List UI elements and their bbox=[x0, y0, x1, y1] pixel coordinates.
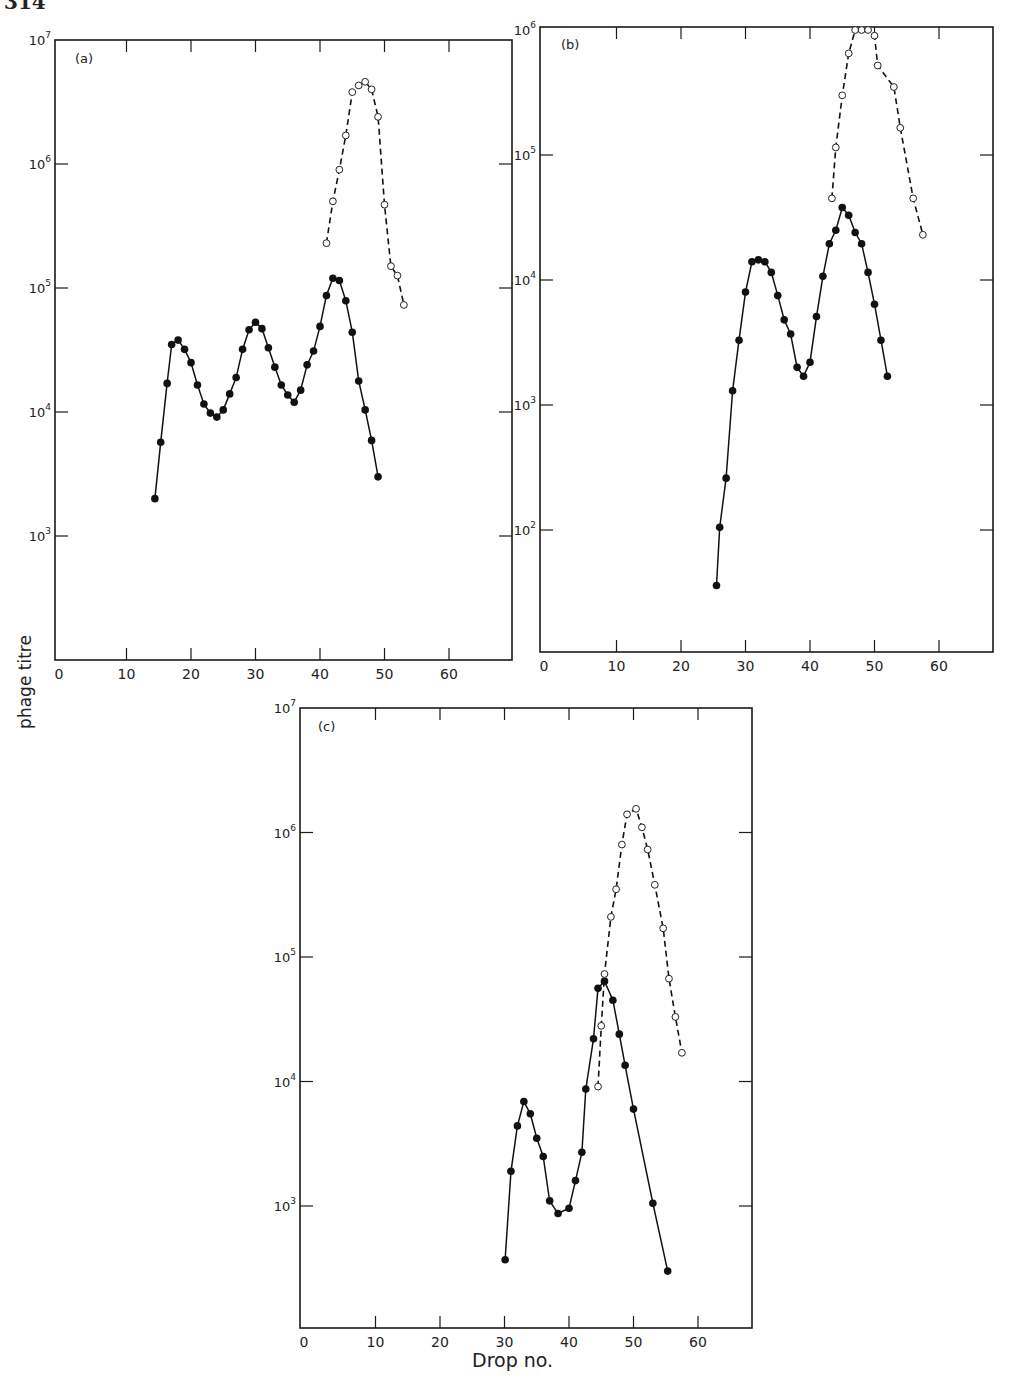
panel-a-chart: (a)1031041051061070102030405060 bbox=[29, 30, 512, 682]
y-tick-label: 107 bbox=[29, 30, 51, 48]
filled-data-point bbox=[284, 391, 292, 399]
filled-data-point bbox=[187, 359, 195, 367]
x-tick-label: 10 bbox=[608, 658, 626, 674]
filled-data-point bbox=[168, 341, 176, 349]
filled-data-point bbox=[533, 1134, 541, 1142]
filled-data-point bbox=[787, 330, 795, 338]
x-tick-label: 20 bbox=[182, 666, 200, 682]
dashed-series-line bbox=[326, 82, 404, 305]
open-data-point bbox=[601, 971, 608, 978]
filled-data-point bbox=[297, 386, 305, 394]
open-data-point bbox=[890, 84, 897, 91]
panel-label: (b) bbox=[561, 37, 579, 52]
open-data-point bbox=[633, 805, 640, 812]
filled-data-point bbox=[774, 292, 782, 300]
y-tick-label: 103 bbox=[274, 1196, 296, 1214]
dashed-series-line bbox=[832, 30, 923, 235]
panel-b-chart: (b)1021031041051060102030405060 bbox=[514, 20, 993, 674]
filled-data-point bbox=[290, 398, 298, 406]
filled-data-point bbox=[174, 336, 182, 344]
open-data-point bbox=[624, 811, 631, 818]
filled-data-point bbox=[232, 374, 240, 382]
filled-data-point bbox=[826, 240, 834, 248]
filled-data-point bbox=[329, 274, 337, 282]
filled-data-point bbox=[342, 297, 350, 305]
x-tick-label: 10 bbox=[118, 666, 136, 682]
open-data-point bbox=[362, 78, 369, 85]
solid-series-line bbox=[717, 208, 888, 586]
x-tick-label: 20 bbox=[672, 658, 690, 674]
y-tick-label: 102 bbox=[514, 520, 536, 538]
y-tick-label: 103 bbox=[514, 395, 536, 413]
x-tick-label: 60 bbox=[930, 658, 948, 674]
filled-data-point bbox=[800, 372, 808, 380]
filled-data-point bbox=[336, 277, 344, 285]
x-tick-label: 50 bbox=[866, 658, 884, 674]
open-data-point bbox=[644, 846, 651, 853]
filled-data-point bbox=[630, 1105, 638, 1113]
open-data-point bbox=[874, 62, 881, 69]
filled-data-point bbox=[755, 256, 763, 264]
y-tick-label: 106 bbox=[274, 823, 297, 841]
filled-data-point bbox=[594, 985, 602, 993]
plot-frame bbox=[300, 708, 752, 1328]
filled-data-point bbox=[355, 377, 363, 385]
filled-data-point bbox=[310, 347, 318, 355]
x-tick-label: 0 bbox=[55, 666, 64, 682]
filled-data-point bbox=[539, 1153, 547, 1161]
open-data-point bbox=[368, 86, 375, 93]
page-number: 314 bbox=[4, 0, 46, 14]
filled-data-point bbox=[219, 406, 227, 414]
dashed-series-line bbox=[598, 809, 682, 1087]
filled-data-point bbox=[761, 258, 769, 266]
x-tick-label: 10 bbox=[367, 1334, 385, 1350]
filled-data-point bbox=[713, 582, 721, 590]
panel-label: (c) bbox=[318, 719, 335, 734]
filled-data-point bbox=[871, 300, 879, 308]
open-data-point bbox=[678, 1049, 685, 1056]
filled-data-point bbox=[609, 996, 617, 1004]
filled-data-point bbox=[735, 336, 743, 344]
open-data-point bbox=[618, 841, 625, 848]
open-data-point bbox=[672, 1014, 679, 1021]
open-data-point bbox=[342, 132, 349, 139]
open-data-point bbox=[660, 925, 667, 932]
y-axis-label: phage titre bbox=[15, 635, 35, 729]
solid-series-line bbox=[505, 981, 668, 1271]
open-data-point bbox=[832, 144, 839, 151]
open-data-point bbox=[608, 913, 615, 920]
filled-data-point bbox=[157, 438, 165, 446]
filled-data-point bbox=[323, 292, 331, 300]
filled-data-point bbox=[729, 387, 737, 395]
open-data-point bbox=[381, 201, 388, 208]
x-tick-label: 50 bbox=[376, 666, 394, 682]
filled-data-point bbox=[507, 1167, 515, 1175]
filled-data-point bbox=[163, 380, 171, 388]
open-data-point bbox=[919, 231, 926, 238]
x-axis-label: Drop no. bbox=[472, 1349, 553, 1371]
filled-data-point bbox=[884, 372, 892, 380]
filled-data-point bbox=[207, 409, 215, 417]
open-data-point bbox=[349, 89, 356, 96]
open-data-point bbox=[666, 975, 673, 982]
filled-data-point bbox=[271, 363, 279, 371]
open-data-point bbox=[839, 92, 846, 99]
filled-data-point bbox=[716, 524, 724, 532]
filled-data-point bbox=[546, 1197, 554, 1205]
filled-data-point bbox=[213, 413, 221, 421]
filled-data-point bbox=[265, 344, 273, 352]
open-data-point bbox=[330, 198, 337, 205]
filled-data-point bbox=[348, 328, 356, 336]
filled-data-point bbox=[501, 1256, 509, 1264]
chart-canvas: (a)1031041051061070102030405060 (b)10210… bbox=[0, 0, 1010, 1375]
filled-data-point bbox=[858, 240, 866, 248]
x-tick-label: 60 bbox=[440, 666, 458, 682]
panel-label: (a) bbox=[75, 51, 93, 66]
x-tick-label: 40 bbox=[560, 1334, 578, 1350]
filled-data-point bbox=[572, 1177, 580, 1185]
open-data-point bbox=[829, 195, 836, 202]
filled-data-point bbox=[590, 1035, 598, 1043]
y-tick-label: 104 bbox=[29, 402, 52, 420]
open-data-point bbox=[871, 32, 878, 39]
figure: 314 (a)1031041051061070102030405060 (b)1… bbox=[0, 0, 1010, 1375]
